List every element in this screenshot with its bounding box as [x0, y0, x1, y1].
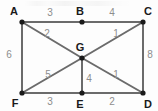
vertex-label-f: F	[12, 98, 19, 109]
edge-weight-gc: 1	[113, 29, 119, 39]
edge-weight-fg: 5	[45, 70, 51, 80]
graph-vertex-g	[79, 55, 84, 60]
vertex-label-e: E	[76, 99, 83, 110]
graph-edge-ag	[22, 22, 82, 58]
vertex-label-g: G	[76, 42, 85, 53]
edge-weight-bc: 4	[109, 8, 115, 18]
vertex-label-a: A	[10, 6, 18, 17]
graph-vertex-a	[19, 19, 24, 24]
graph-vertex-c	[140, 19, 145, 24]
edge-weight-ab: 3	[47, 8, 53, 18]
edge-weight-af: 6	[6, 50, 12, 60]
edge-weight-gd: 1	[113, 70, 119, 80]
edge-weight-ed: 2	[109, 97, 115, 107]
edge-weight-ge: 4	[86, 74, 92, 84]
graph-vertex-b	[79, 19, 84, 24]
edge-weight-fe: 3	[47, 97, 53, 107]
edge-weight-ag: 2	[44, 29, 50, 39]
graph-canvas	[0, 0, 158, 111]
edge-weight-cd: 8	[147, 50, 153, 60]
graph-vertex-e	[79, 90, 84, 95]
vertex-label-b: B	[76, 6, 84, 17]
graph-edge-fg	[22, 58, 82, 93]
graph-vertex-d	[140, 90, 145, 95]
weighted-graph-figure: 34683221541 ABCGFED	[0, 0, 158, 111]
vertex-label-d: D	[144, 99, 152, 110]
graph-vertex-f	[19, 90, 24, 95]
vertex-label-c: C	[144, 6, 152, 17]
